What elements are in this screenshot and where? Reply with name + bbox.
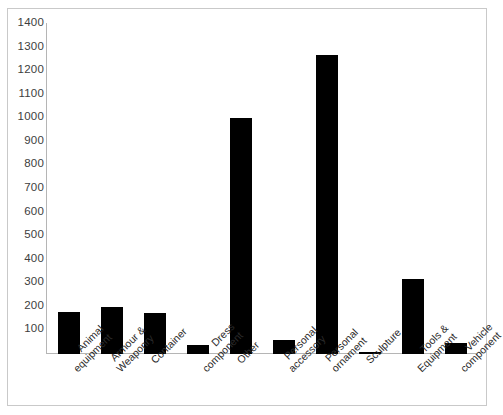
y-axis-tick-label: 200 [24, 300, 44, 312]
bar-slot [133, 9, 176, 354]
y-axis-tick-label: 600 [24, 206, 44, 218]
bar-slot [90, 9, 133, 354]
bar-slot [176, 9, 219, 354]
bar-series [47, 9, 478, 354]
x-label-slot: Tools &Equipment [392, 354, 435, 406]
x-axis-category-labels: AnimalequipmentArmour &WeaponryContainer… [47, 354, 478, 406]
y-axis-tick-label: 1300 [18, 41, 44, 53]
bar-slot [392, 9, 435, 354]
bar-slot [263, 9, 306, 354]
bar-slot [306, 9, 349, 354]
x-label-slot: Personalaccessory [263, 354, 306, 406]
x-label-slot: Container [133, 354, 176, 406]
y-axis-tick-label: 1200 [18, 64, 44, 76]
x-label-slot: Other [219, 354, 262, 406]
x-label-slot: Sculpture [349, 354, 392, 406]
x-label-slot: Personalornament [306, 354, 349, 406]
chart-frame: 1002003004005006007008009001000110012001… [7, 8, 487, 406]
y-axis-tick-label: 500 [24, 229, 44, 241]
y-axis-tick-label: 1000 [18, 111, 44, 123]
y-axis-tick-label: 100 [24, 323, 44, 335]
bar-slot [219, 9, 262, 354]
y-axis-tick-label: 1400 [18, 17, 44, 29]
bar[interactable] [230, 118, 252, 354]
y-axis-tick-label: 800 [24, 158, 44, 170]
y-axis-tick-label: 700 [24, 182, 44, 194]
y-axis-tick-label: 900 [24, 135, 44, 147]
x-label-slot: Armour &Weaponry [90, 354, 133, 406]
bar-slot [435, 9, 478, 354]
y-axis-tick-label: 300 [24, 276, 44, 288]
bar-slot [47, 9, 90, 354]
bar[interactable] [316, 55, 338, 354]
y-axis-tick-label: 400 [24, 253, 44, 265]
x-label-slot: Vehiclecomponent [435, 354, 478, 406]
y-axis-tick-labels: 1002003004005006007008009001000110012001… [8, 9, 44, 407]
bar-slot [349, 9, 392, 354]
y-axis-tick-label: 1100 [18, 88, 44, 100]
x-label-slot: Dresscomponent [176, 354, 219, 406]
x-label-slot: Animalequipment [47, 354, 90, 406]
